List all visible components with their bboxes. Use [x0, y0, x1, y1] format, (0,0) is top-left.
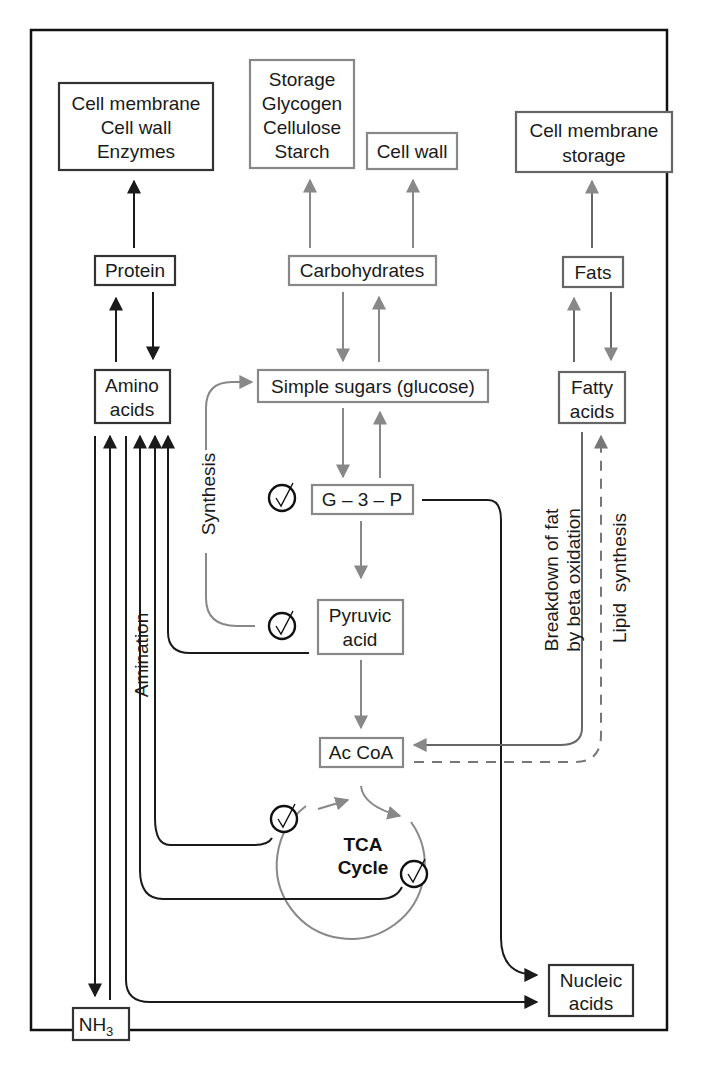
box-cell-membrane-storage: Cell membrane storage [516, 112, 672, 172]
box-g3p: G – 3 – P [312, 485, 413, 514]
box-ac-coa: Ac CoA [320, 738, 403, 767]
metabolic-pathway-diagram: Cell membrane Cell wall Enzymes Storage … [0, 0, 726, 1084]
label-lipid-synthesis: Lipid synthesis [609, 513, 630, 643]
svg-text:storage: storage [562, 145, 625, 166]
svg-text:Carbohydrates: Carbohydrates [300, 260, 425, 281]
svg-text:Cell wall: Cell wall [101, 117, 172, 138]
check-tca-inner [401, 859, 427, 887]
svg-text:Cell membrane: Cell membrane [530, 120, 659, 141]
svg-text:acids: acids [110, 399, 154, 420]
svg-text:acids: acids [569, 993, 613, 1014]
label-beta-oxidation-1: Breakdown of fat [541, 508, 562, 651]
box-carbohydrates: Carbohydrates [289, 256, 436, 285]
tca-cycle-entry-arrow [318, 800, 348, 809]
svg-text:Simple sugars (glucose): Simple sugars (glucose) [271, 376, 475, 397]
svg-text:Ac CoA: Ac CoA [329, 742, 394, 763]
check-pyruvic [269, 611, 295, 639]
svg-text:acids: acids [570, 401, 614, 422]
box-amino-acids: Amino acids [95, 370, 170, 423]
box-storage-polysaccharides: Storage Glycogen Cellulose Starch [250, 60, 354, 168]
svg-text:Protein: Protein [105, 260, 165, 281]
check-tca-upper [271, 804, 297, 832]
svg-text:Fats: Fats [575, 262, 612, 283]
box-protein: Protein [95, 256, 175, 285]
svg-text:TCA: TCA [343, 834, 382, 855]
svg-text:Cycle: Cycle [338, 857, 389, 878]
svg-text:G – 3 – P: G – 3 – P [322, 489, 402, 510]
check-g3p [269, 483, 295, 511]
label-synthesis: Synthesis [198, 453, 219, 535]
synthesis-path-lower [206, 553, 255, 626]
label: Cell membrane [72, 93, 201, 114]
svg-text:Storage: Storage [269, 69, 336, 90]
box-cell-membrane-wall-enzymes: Cell membrane Cell wall Enzymes [59, 83, 213, 170]
svg-text:Amino: Amino [105, 375, 159, 396]
box-pyruvic-acid: Pyruvic acid [318, 600, 403, 654]
box-fats: Fats [563, 257, 623, 287]
svg-text:Fatty: Fatty [571, 377, 614, 398]
svg-text:Glycogen: Glycogen [262, 93, 342, 114]
svg-text:Enzymes: Enzymes [97, 141, 175, 162]
box-cell-wall: Cell wall [367, 133, 457, 169]
arrow-amino-to-nucleic [126, 436, 537, 1002]
synthesis-path-upper [206, 382, 252, 450]
svg-text:Starch: Starch [275, 141, 330, 162]
svg-text:acid: acid [343, 629, 378, 650]
arrow-accoa-to-tca [361, 786, 400, 816]
label-amination: Amination [131, 613, 152, 698]
svg-text:Cell wall: Cell wall [377, 141, 448, 162]
arrow-g3p-to-nucleic [422, 500, 537, 975]
box-simple-sugars: Simple sugars (glucose) [258, 370, 488, 402]
svg-text:Nucleic: Nucleic [560, 970, 622, 991]
tca-cycle: TCA Cycle [277, 786, 425, 939]
box-nucleic-acids: Nucleic acids [549, 965, 633, 1016]
box-nh3: NH3 [73, 1008, 129, 1040]
svg-text:Pyruvic: Pyruvic [329, 605, 391, 626]
label-beta-oxidation-2: by beta oxidation [563, 508, 584, 652]
svg-text:Cellulose: Cellulose [263, 117, 341, 138]
box-fatty-acids: Fatty acids [559, 372, 625, 423]
